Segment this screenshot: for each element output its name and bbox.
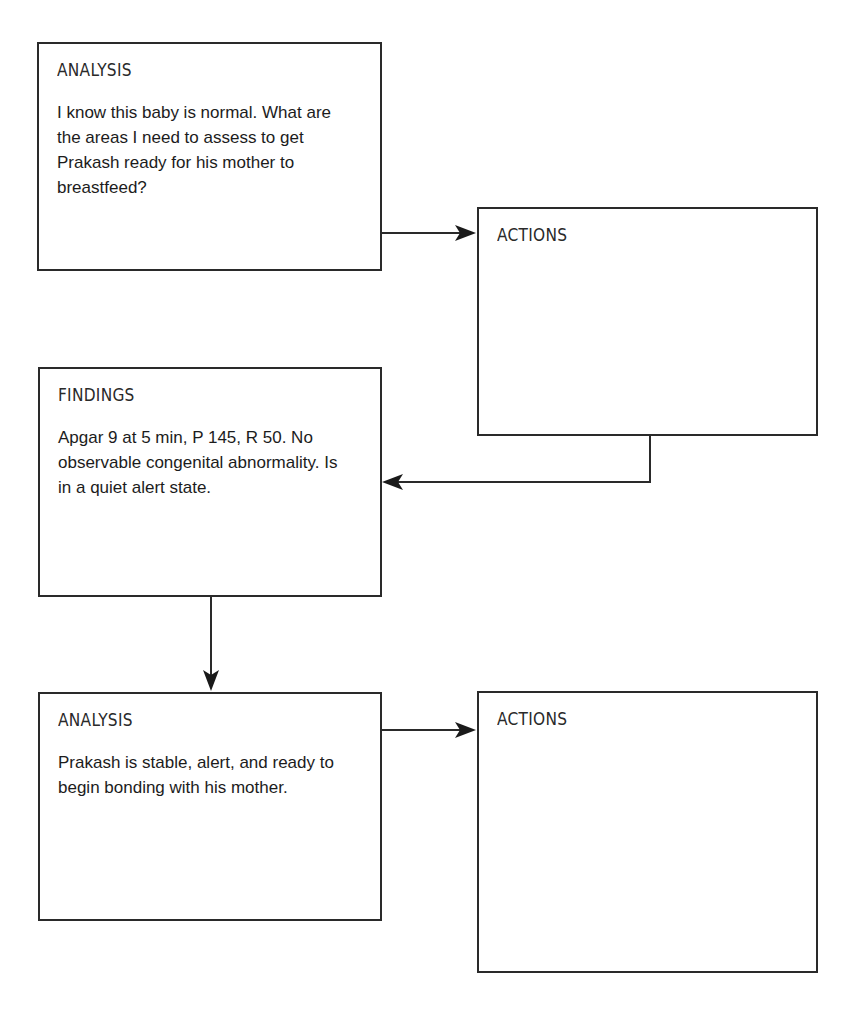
analysis-box-1-title: ANALYSIS bbox=[57, 60, 341, 80]
analysis-box-2-title: ANALYSIS bbox=[58, 710, 341, 730]
findings-box-body: Apgar 9 at 5 min, P 145, R 50. No observ… bbox=[58, 425, 360, 500]
analysis-box-2-body: Prakash is stable, alert, and ready to b… bbox=[58, 750, 360, 800]
arrow-actions1-to-findings bbox=[382, 435, 650, 490]
actions-box-2-title: ACTIONS bbox=[497, 709, 778, 729]
arrow-analysis1-to-actions1 bbox=[382, 225, 476, 241]
actions-box-1-title: ACTIONS bbox=[497, 225, 778, 245]
analysis-box-2: ANALYSIS Prakash is stable, alert, and r… bbox=[38, 692, 382, 921]
findings-box: FINDINGS Apgar 9 at 5 min, P 145, R 50. … bbox=[38, 367, 382, 597]
arrow-analysis2-to-actions2 bbox=[382, 722, 476, 738]
arrowhead-icon bbox=[455, 225, 476, 241]
arrow-findings-to-analysis2 bbox=[203, 597, 219, 691]
actions-box-2: ACTIONS bbox=[477, 691, 818, 973]
actions-box-1: ACTIONS bbox=[477, 207, 818, 436]
analysis-box-1-body: I know this baby is normal. What are the… bbox=[57, 100, 371, 200]
arrowhead-icon bbox=[455, 722, 476, 738]
arrowhead-icon bbox=[203, 670, 219, 691]
arrowhead-icon bbox=[382, 474, 403, 490]
findings-box-title: FINDINGS bbox=[58, 385, 341, 405]
analysis-box-1: ANALYSIS I know this baby is normal. Wha… bbox=[37, 42, 382, 271]
